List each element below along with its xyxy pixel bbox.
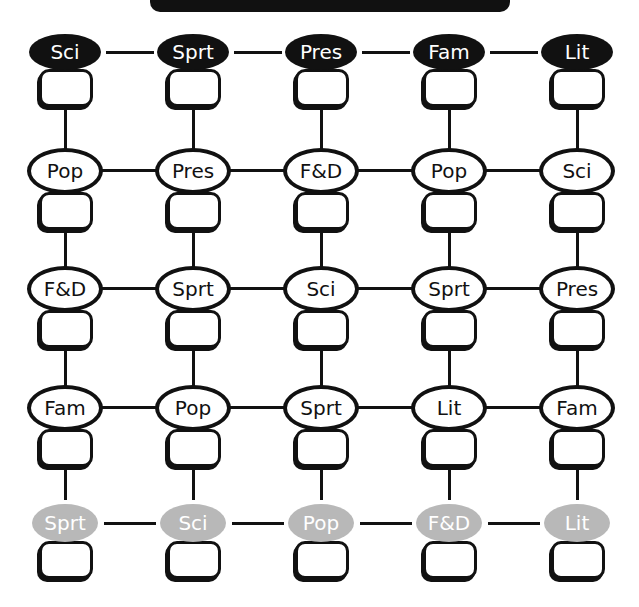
connector-r5-c4-c5 — [488, 522, 540, 525]
answer-box[interactable] — [551, 541, 605, 579]
category-oval: Pop — [27, 148, 103, 194]
answer-box[interactable] — [167, 310, 221, 348]
category-oval: Sci — [539, 148, 615, 194]
category-oval: Sci — [283, 266, 359, 312]
answer-box[interactable] — [295, 429, 349, 467]
answer-box[interactable] — [423, 69, 477, 107]
title-banner — [150, 0, 510, 12]
answer-box[interactable] — [39, 541, 93, 579]
category-oval: Lit — [541, 34, 613, 70]
category-oval: F&D — [27, 266, 103, 312]
answer-box[interactable] — [423, 429, 477, 467]
category-oval: Sprt — [157, 34, 229, 70]
connector-r1-c2-c3 — [234, 51, 282, 54]
category-oval: Pres — [285, 34, 357, 70]
answer-box[interactable] — [167, 429, 221, 467]
answer-box[interactable] — [551, 429, 605, 467]
answer-box[interactable] — [167, 69, 221, 107]
category-oval: Sci — [160, 504, 226, 542]
category-oval: F&D — [416, 504, 482, 542]
answer-box[interactable] — [423, 310, 477, 348]
connector-r5-c3-c4 — [360, 522, 412, 525]
connector-r1-c1-c2 — [106, 51, 154, 54]
answer-box[interactable] — [39, 192, 93, 230]
answer-box[interactable] — [295, 310, 349, 348]
connector-r1-c4-c5 — [490, 51, 538, 54]
category-oval: Pres — [155, 148, 231, 194]
connector-r1-c3-c4 — [362, 51, 410, 54]
answer-box[interactable] — [551, 69, 605, 107]
answer-box[interactable] — [551, 310, 605, 348]
answer-box[interactable] — [295, 192, 349, 230]
connector-r5-c1-c2 — [104, 522, 156, 525]
category-oval: Sprt — [411, 266, 487, 312]
answer-box[interactable] — [551, 192, 605, 230]
category-oval: Fam — [539, 385, 615, 431]
category-oval: Sci — [29, 34, 101, 70]
category-oval: Fam — [27, 385, 103, 431]
answer-box[interactable] — [39, 69, 93, 107]
category-oval: Sprt — [155, 266, 231, 312]
category-oval: Lit — [544, 504, 610, 542]
answer-box[interactable] — [167, 192, 221, 230]
answer-box[interactable] — [39, 429, 93, 467]
category-oval: Pop — [411, 148, 487, 194]
category-oval: Pop — [155, 385, 231, 431]
category-oval: Pres — [539, 266, 615, 312]
category-oval: Pop — [288, 504, 354, 542]
category-oval: Sprt — [283, 385, 359, 431]
answer-box[interactable] — [295, 541, 349, 579]
answer-box[interactable] — [167, 541, 221, 579]
connector-r5-c2-c3 — [232, 522, 284, 525]
answer-box[interactable] — [39, 310, 93, 348]
answer-box[interactable] — [295, 69, 349, 107]
category-oval: Lit — [411, 385, 487, 431]
answer-box[interactable] — [423, 541, 477, 579]
category-oval: Fam — [413, 34, 485, 70]
answer-box[interactable] — [423, 192, 477, 230]
category-oval: F&D — [283, 148, 359, 194]
category-oval: Sprt — [32, 504, 98, 542]
